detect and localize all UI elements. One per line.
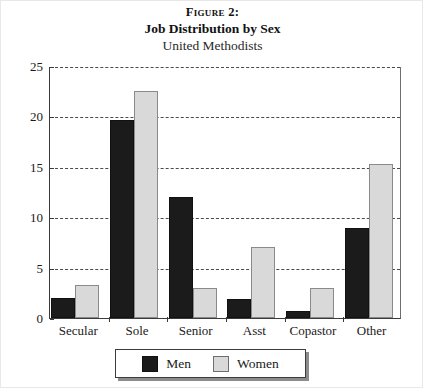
legend-entry-women[interactable]: Women xyxy=(213,356,279,372)
x-axis-label-other: Other xyxy=(342,323,401,338)
bar-secular-men xyxy=(51,298,75,318)
figure-subtitle: United Methodists xyxy=(1,37,423,54)
x-axis-label-copastor: Copastor xyxy=(284,323,343,338)
figure-container: Figure 2: Job Distribution by Sex United… xyxy=(0,0,423,388)
gridline xyxy=(50,117,400,118)
bar-copastor-women xyxy=(310,288,334,318)
gridline xyxy=(50,168,400,169)
y-axis-tick-label: 10 xyxy=(3,211,43,224)
y-axis-tick-label: 5 xyxy=(3,262,43,275)
women-swatch xyxy=(213,356,229,372)
y-axis-tick-label: 15 xyxy=(3,161,43,174)
legend: MenWomen xyxy=(115,349,306,378)
bar-asst-women xyxy=(251,247,275,318)
y-axis-tick-mark xyxy=(50,67,54,68)
plot-area xyxy=(49,67,401,319)
y-axis-tick-mark xyxy=(50,218,54,219)
page-title: Job Distribution by Sex xyxy=(1,20,423,37)
figure-number-label: Figure 2: xyxy=(1,5,423,20)
bar-other-men xyxy=(345,228,369,318)
legend-label-women: Women xyxy=(237,357,279,371)
bar-sole-men xyxy=(110,120,134,318)
y-axis-tick-mark xyxy=(50,117,54,118)
title-block: Figure 2: Job Distribution by Sex United… xyxy=(1,5,423,54)
bar-secular-women xyxy=(75,285,99,318)
y-axis-tick-mark xyxy=(50,319,54,320)
bar-other-women xyxy=(369,164,393,318)
bar-asst-men xyxy=(227,299,251,318)
x-axis-label-secular: Secular xyxy=(49,323,108,338)
legend-label-men: Men xyxy=(166,357,191,371)
x-axis-label-senior: Senior xyxy=(166,323,225,338)
y-axis-tick-label: 20 xyxy=(3,110,43,123)
gridline xyxy=(50,218,400,219)
legend-entry-men[interactable]: Men xyxy=(142,356,191,372)
y-axis-tick-mark xyxy=(50,269,54,270)
bar-senior-women xyxy=(193,288,217,318)
y-axis-tick-mark xyxy=(50,168,54,169)
x-axis-label-asst: Asst xyxy=(225,323,284,338)
y-axis-tick-label: 25 xyxy=(3,60,43,73)
bar-copastor-men xyxy=(286,311,310,318)
bar-senior-men xyxy=(169,197,193,318)
gridline xyxy=(50,67,400,68)
y-axis-tick-label: 0 xyxy=(3,312,43,325)
bar-sole-women xyxy=(134,91,158,318)
men-swatch xyxy=(142,356,158,372)
x-axis-label-sole: Sole xyxy=(108,323,167,338)
